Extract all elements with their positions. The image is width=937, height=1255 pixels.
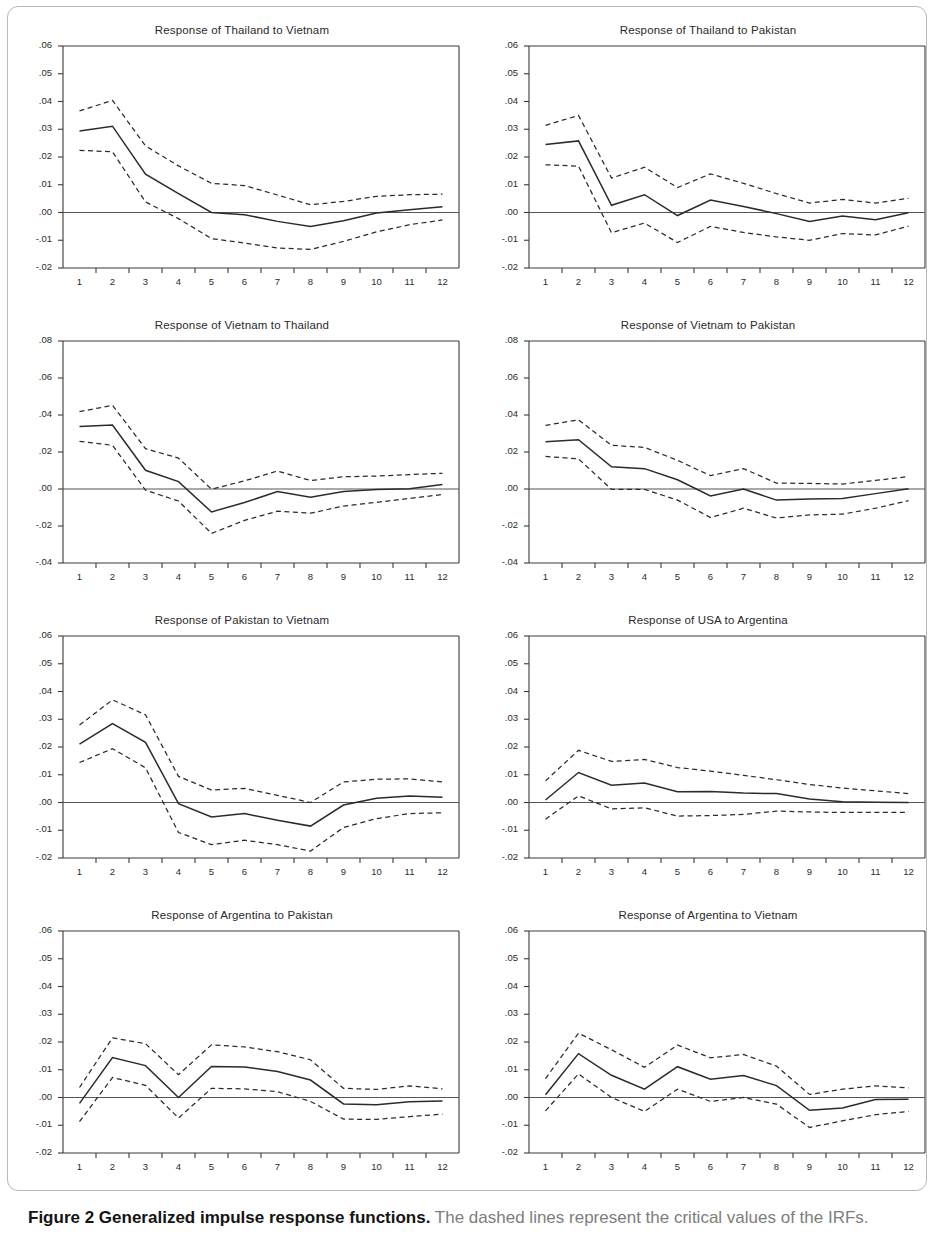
plot-area: .06.05.04.03.02.01.00-.01-.0212345678910… (529, 636, 925, 858)
y-axis-tick-label: -.04 (18, 556, 52, 567)
irf-line (546, 1054, 909, 1111)
critical-value-line (546, 796, 909, 819)
figure-page: Response of Thailand to Vietnam.06.05.04… (0, 0, 937, 1255)
x-axis-tick-label: 10 (833, 571, 853, 582)
critical-value-line (80, 1078, 443, 1122)
y-axis-tick-label: .06 (484, 924, 518, 935)
y-axis-tick-label: .04 (484, 980, 518, 991)
x-axis-tick-label: 11 (400, 276, 420, 287)
figure-caption-rest: The dashed lines represent the critical … (430, 1208, 868, 1227)
x-axis-tick-label: 1 (70, 866, 90, 877)
critical-value-line (80, 749, 443, 851)
x-axis-tick-label: 3 (602, 571, 622, 582)
x-axis-tick-label: 3 (602, 1161, 622, 1172)
y-axis-tick-label: .06 (18, 371, 52, 382)
plot-svg (529, 931, 925, 1153)
y-axis-tick-label: -.04 (484, 556, 518, 567)
y-axis-tick-label: .02 (484, 1035, 518, 1046)
panel-title: Response of Argentina to Pakistan (8, 909, 476, 921)
x-axis-tick-label: 11 (400, 1161, 420, 1172)
y-axis-tick-label: -.01 (18, 823, 52, 834)
y-axis-tick-label: .06 (484, 371, 518, 382)
x-axis-tick-label: 6 (235, 571, 255, 582)
plot-area: .06.05.04.03.02.01.00-.01-.0212345678910… (63, 931, 459, 1153)
plot-area: .06.05.04.03.02.01.00-.01-.0212345678910… (63, 636, 459, 858)
critical-value-line (80, 700, 443, 803)
irf-line (546, 440, 909, 500)
x-axis-tick-label: 10 (367, 571, 387, 582)
x-axis-tick-label: 4 (169, 571, 189, 582)
x-axis-tick-label: 3 (602, 866, 622, 877)
y-axis-tick-label: .02 (18, 740, 52, 751)
y-axis-tick-label: .08 (18, 334, 52, 345)
x-axis-tick-label: 12 (899, 1161, 919, 1172)
x-axis-tick-label: 12 (899, 866, 919, 877)
y-axis-tick-label: .03 (484, 1007, 518, 1018)
x-axis-tick-label: 6 (701, 571, 721, 582)
panel-title: Response of Vietnam to Thailand (8, 319, 476, 331)
x-axis-tick-label: 3 (136, 571, 156, 582)
irf-panel: Response of Thailand to Pakistan.06.05.0… (474, 8, 937, 306)
x-axis-tick-label: 5 (202, 1161, 222, 1172)
x-axis-tick-label: 4 (169, 276, 189, 287)
panel-title: Response of Thailand to Vietnam (8, 24, 476, 36)
x-axis-tick-label: 2 (569, 866, 589, 877)
x-axis-tick-label: 2 (569, 571, 589, 582)
x-axis-tick-label: 5 (202, 276, 222, 287)
plot-svg (529, 636, 925, 858)
x-axis-tick-label: 4 (635, 571, 655, 582)
y-axis-tick-label: .06 (484, 629, 518, 640)
panel-title: Response of Thailand to Pakistan (474, 24, 937, 36)
x-axis-tick-label: 1 (536, 866, 556, 877)
x-axis-tick-label: 9 (334, 276, 354, 287)
plot-svg (63, 636, 459, 858)
y-axis-tick-label: .04 (484, 685, 518, 696)
y-axis-tick-label: .00 (18, 796, 52, 807)
y-axis-tick-label: -.02 (484, 1146, 518, 1157)
x-axis-tick-label: 7 (268, 866, 288, 877)
panel-title: Response of Pakistan to Vietnam (8, 614, 476, 626)
x-axis-tick-label: 7 (268, 276, 288, 287)
plot-area: .08.06.04.02.00-.02-.04123456789101112 (63, 341, 459, 563)
x-axis-tick-label: 4 (635, 866, 655, 877)
y-axis-tick-label: .02 (484, 740, 518, 751)
x-axis-tick-label: 12 (433, 276, 453, 287)
x-axis-tick-label: 3 (136, 276, 156, 287)
x-axis-tick-label: 7 (734, 571, 754, 582)
y-axis-tick-label: .02 (18, 150, 52, 161)
y-axis-tick-label: -.02 (484, 261, 518, 272)
x-axis-tick-label: 2 (103, 1161, 123, 1172)
x-axis-tick-label: 4 (169, 866, 189, 877)
x-axis-tick-label: 2 (569, 276, 589, 287)
plot-svg (63, 931, 459, 1153)
critical-value-line (546, 420, 909, 484)
x-axis-tick-label: 9 (334, 571, 354, 582)
irf-panel: Response of Pakistan to Vietnam.06.05.04… (8, 598, 476, 896)
y-axis-tick-label: -.02 (18, 851, 52, 862)
x-axis-tick-label: 7 (734, 1161, 754, 1172)
critical-value-line (546, 456, 909, 518)
x-axis-tick-label: 7 (734, 866, 754, 877)
y-axis-tick-label: .04 (18, 980, 52, 991)
x-axis-tick-label: 1 (536, 276, 556, 287)
y-axis-tick-label: .04 (18, 408, 52, 419)
x-axis-tick-label: 8 (767, 571, 787, 582)
panel-title: Response of Argentina to Vietnam (474, 909, 937, 921)
x-axis-tick-label: 9 (334, 1161, 354, 1172)
x-axis-tick-label: 11 (400, 571, 420, 582)
x-axis-tick-label: 11 (400, 866, 420, 877)
x-axis-tick-label: 12 (899, 276, 919, 287)
y-axis-tick-label: .04 (18, 95, 52, 106)
y-axis-tick-label: .03 (18, 712, 52, 723)
y-axis-tick-label: -.02 (18, 519, 52, 530)
irf-line (80, 126, 443, 226)
y-axis-tick-label: .01 (18, 768, 52, 779)
y-axis-tick-label: .05 (484, 657, 518, 668)
irf-line (80, 724, 443, 826)
x-axis-tick-label: 9 (800, 1161, 820, 1172)
irf-panel: Response of Thailand to Vietnam.06.05.04… (8, 8, 476, 306)
y-axis-tick-label: .00 (18, 482, 52, 493)
x-axis-tick-label: 7 (268, 571, 288, 582)
critical-value-line (80, 405, 443, 489)
x-axis-tick-label: 7 (734, 276, 754, 287)
